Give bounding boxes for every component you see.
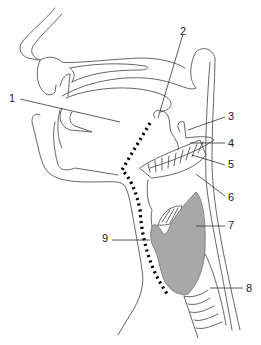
label-5: 5: [228, 159, 234, 170]
hyoid-muscle-hatch: [140, 140, 206, 178]
label-6: 6: [228, 192, 234, 203]
soft-palate-outline: [66, 88, 171, 112]
upper-lip-outline: [37, 57, 185, 95]
nose-outline: [20, 8, 62, 60]
label-9: 9: [102, 233, 108, 244]
uvula-outline: [153, 110, 178, 150]
hard-palate-outline: [60, 64, 196, 96]
diagram-drawing: [0, 0, 261, 345]
neck-front-outline: [118, 212, 143, 335]
epiglottis-outline: [150, 122, 214, 168]
label-8: 8: [246, 283, 252, 294]
label-2: 2: [180, 26, 186, 37]
thyroid-shaded-region: [151, 192, 206, 294]
anatomy-diagram: 1 2 3 4 5 6 7 8 9: [0, 0, 261, 345]
label-4: 4: [228, 138, 234, 149]
label-1: 1: [9, 93, 15, 104]
label-7: 7: [228, 220, 234, 231]
label-3: 3: [228, 111, 234, 122]
